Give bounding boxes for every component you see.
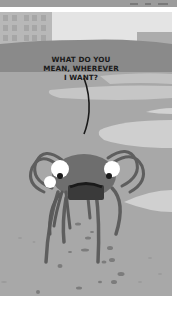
speech-line-2: MEAN, WHEREVER (36, 64, 126, 73)
panel-gutter (0, 296, 177, 313)
speech-line-1: WHAT DO YOU (36, 55, 126, 64)
previous-panel-strip (0, 0, 177, 7)
speech-bubble-text: WHAT DO YOU MEAN, WHEREVER I WANT? (36, 55, 126, 82)
strip-mark (145, 3, 151, 5)
strip-mark (130, 3, 138, 5)
comic-panel: WHAT DO YOU MEAN, WHEREVER I WANT? (0, 12, 172, 296)
building-left (0, 12, 52, 44)
strip-mark (158, 3, 168, 5)
speech-line-3: I WANT? (36, 73, 126, 82)
